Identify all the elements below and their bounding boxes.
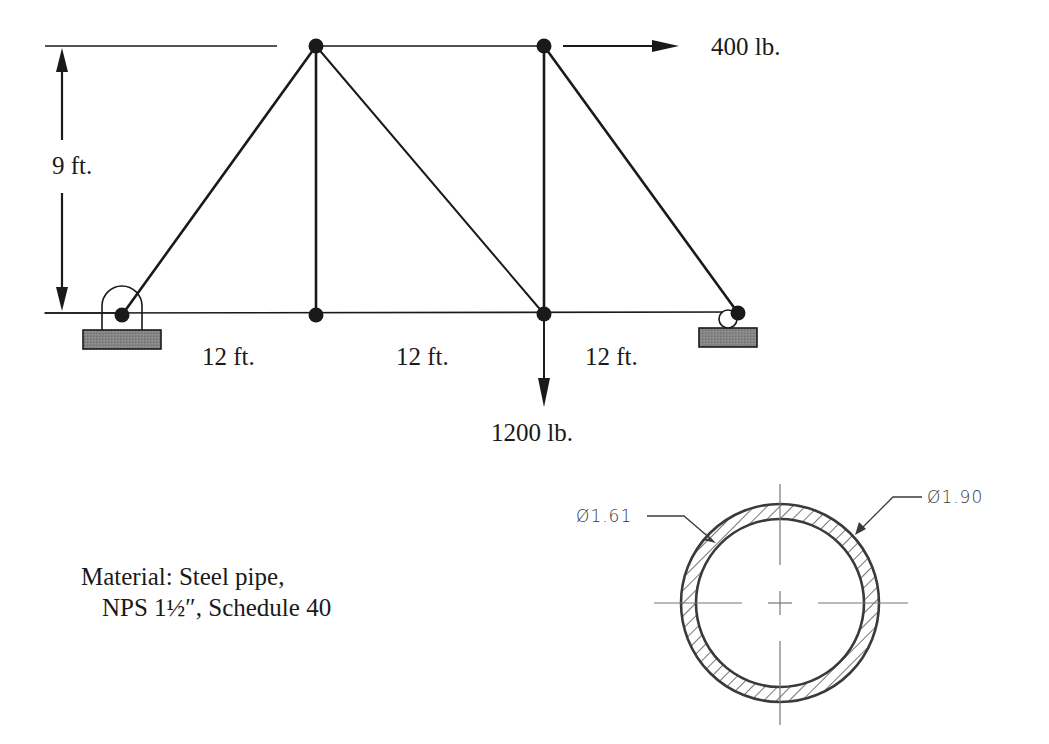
roller-support	[699, 310, 757, 347]
member-FD	[544, 46, 738, 313]
node-E	[309, 39, 324, 54]
span-label-1: 12 ft.	[202, 344, 255, 369]
material-note-line2: NPS 1½″, Schedule 40	[81, 593, 331, 624]
arrow-right-icon	[652, 40, 679, 52]
truss-diagram: 9 ft. 12 ft. 12 ft. 12 ft. 400 lb. 1200 …	[0, 0, 1049, 744]
dimension-height	[45, 46, 277, 313]
arrow-up-icon	[56, 48, 68, 72]
diagram-canvas	[0, 0, 1049, 744]
height-dimension-label: 9 ft.	[52, 153, 92, 178]
load-horizontal-arrow	[563, 40, 679, 52]
load-vertical-arrow	[538, 320, 550, 407]
node-D	[731, 306, 746, 321]
inner-diameter-label: Ø1.61	[576, 508, 632, 525]
leader-outer-diameter	[855, 497, 922, 535]
span-label-2: 12 ft.	[396, 344, 449, 369]
member-AE	[122, 46, 316, 315]
node-A	[115, 308, 130, 323]
outer-diameter-label: Ø1.90	[927, 489, 983, 506]
member-EC	[316, 46, 544, 314]
load-400-label: 400 lb.	[711, 34, 780, 59]
arrow-down-icon	[538, 378, 550, 407]
material-note-line1: Material: Steel pipe,	[81, 562, 331, 593]
pipe-cross-section	[647, 484, 922, 725]
span-label-3: 12 ft.	[585, 344, 638, 369]
load-1200-label: 1200 lb.	[491, 420, 573, 445]
node-C	[537, 307, 552, 322]
material-note: Material: Steel pipe, NPS 1½″, Schedule …	[81, 562, 331, 623]
truss-members	[45, 46, 738, 315]
arrow-down-icon	[56, 287, 68, 311]
node-F	[537, 39, 552, 54]
member-bottom-chord	[45, 312, 738, 313]
node-B	[309, 308, 324, 323]
